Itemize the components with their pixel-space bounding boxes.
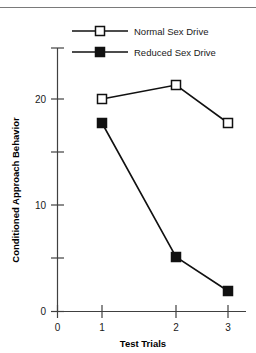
legend-marker-open-square [96,27,105,36]
legend-marker-filled-square [96,48,105,57]
series-line-normal-sex-drive [102,85,228,123]
data-point-reduced-t3 [224,287,233,296]
x-tick-label-0: 0 [55,322,61,333]
y-axis-title: Conditioned Approach Behavior [10,117,21,263]
legend-entry-normal-sex-drive: Normal Sex Drive [72,26,208,37]
x-tick-label-3: 3 [225,322,231,333]
y-tick-label-0: 0 [40,306,46,317]
legend-label-normal-sex-drive: Normal Sex Drive [134,26,208,37]
x-axis-title: Test Trials [120,338,166,349]
series-line-reduced-sex-drive [102,123,228,291]
y-tick-label-10: 10 [35,200,47,211]
x-tick-label-1: 1 [99,322,105,333]
legend-entry-reduced-sex-drive: Reduced Sex Drive [72,47,216,58]
chart-legend: Normal Sex Drive Reduced Sex Drive [72,26,216,58]
y-tick-label-20: 20 [35,94,47,105]
legend-label-reduced-sex-drive: Reduced Sex Drive [134,47,216,58]
data-point-normal-t3 [224,119,233,128]
data-point-normal-t2 [172,81,181,90]
data-point-reduced-t2 [172,253,181,262]
x-tick-label-2: 2 [173,322,179,333]
chart-figure: Conditioned Approach Behavior 20 10 0 0 … [0,0,256,353]
data-point-normal-t1 [98,95,107,104]
data-point-reduced-t1 [98,119,107,128]
